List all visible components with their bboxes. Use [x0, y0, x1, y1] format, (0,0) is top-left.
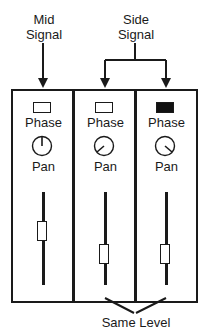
- fader-track: [104, 192, 107, 285]
- phase-button-active[interactable]: [156, 102, 174, 113]
- channel-strip-side-left: Phase Pan: [75, 91, 136, 301]
- phase-label: Phase: [75, 115, 136, 130]
- fader-track: [165, 192, 168, 285]
- pan-knob[interactable]: [93, 135, 115, 157]
- fader-handle[interactable]: [37, 221, 47, 241]
- mixer-console: Phase Pan Phase Pan Phase Pan: [11, 89, 198, 303]
- pan-label: Pan: [136, 159, 197, 174]
- same-level-label: Same Level: [95, 315, 177, 330]
- fader-handle[interactable]: [99, 244, 109, 264]
- phase-button[interactable]: [33, 102, 51, 113]
- phase-button[interactable]: [95, 102, 113, 113]
- fader-handle[interactable]: [160, 244, 170, 264]
- pan-label: Pan: [13, 159, 74, 174]
- channel-strip-mid: Phase Pan: [13, 91, 74, 301]
- pan-knob[interactable]: [154, 135, 176, 157]
- phase-label: Phase: [136, 115, 197, 130]
- channel-strip-side-right: Phase Pan: [136, 91, 197, 301]
- side-arrow-left-head: [100, 78, 110, 88]
- pan-label: Pan: [75, 159, 136, 174]
- mid-arrow-head: [38, 78, 48, 88]
- phase-label: Phase: [13, 115, 74, 130]
- side-arrow-right-head: [161, 78, 171, 88]
- pan-knob[interactable]: [31, 135, 53, 157]
